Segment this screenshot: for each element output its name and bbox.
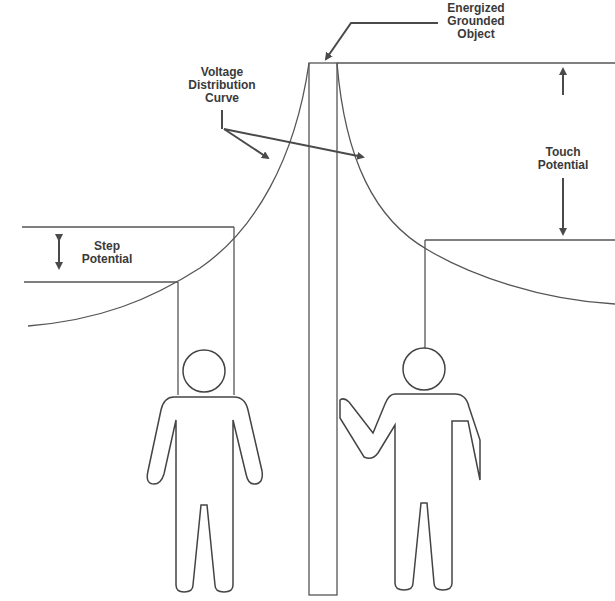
label-touch-potential: Touch Potential [528, 146, 598, 172]
step-person [147, 350, 262, 592]
diagram-canvas: Energized Grounded Object Voltage Distri… [0, 0, 615, 601]
label-voltage-curve: Voltage Distribution Curve [177, 66, 267, 105]
label-step-potential: Step Potential [72, 240, 142, 266]
grounded-object-pole [309, 63, 337, 595]
touch-person [340, 348, 480, 590]
voltage-curve-right [337, 63, 615, 304]
label-energized-object: Energized Grounded Object [436, 2, 516, 41]
diagram-svg [0, 0, 615, 601]
